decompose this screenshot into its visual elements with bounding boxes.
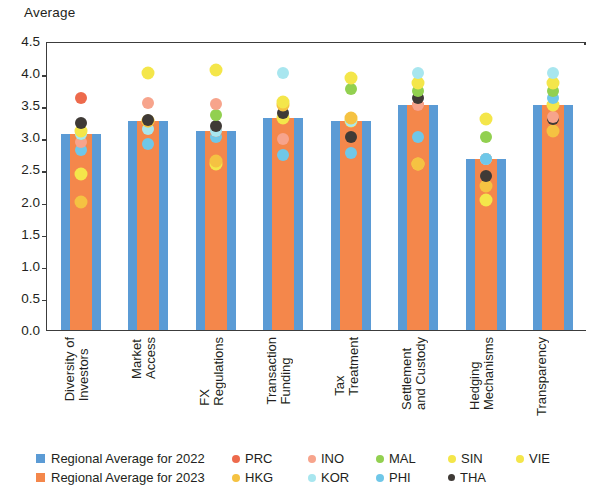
y-tick-label: 1.5 [2,227,40,242]
data-point-kor[interactable] [547,67,559,79]
data-point-tha[interactable] [210,120,222,132]
legend-label: HKG [245,470,273,485]
y-axis-tick [42,75,47,76]
y-tick-label: 3.5 [2,98,40,113]
data-point-ino[interactable] [142,97,154,109]
data-point-sin[interactable] [142,67,155,80]
data-point-phi[interactable] [277,149,289,161]
legend-label: Regional Average for 2023 [51,470,205,485]
bar-regional-average-2023[interactable] [137,121,159,330]
x-axis-label: Transaction Funding [265,337,293,404]
data-point-hkg[interactable] [74,195,87,208]
legend-item-country[interactable]: PHI [376,470,411,485]
legend-item-country[interactable]: KOR [308,470,349,485]
y-axis-tick [42,268,47,269]
data-point-sin[interactable] [344,72,357,85]
bar-group [61,43,101,330]
legend-item-country[interactable]: SIN [448,451,483,466]
y-tick-label: 0.5 [2,291,40,306]
data-point-tha[interactable] [75,117,87,129]
data-point-prc[interactable] [75,92,87,104]
chart-legend: Regional Average for 2022Regional Averag… [36,451,588,489]
legend-dot-icon [376,455,384,463]
legend-item-bar[interactable]: Regional Average for 2022 [36,451,205,466]
legend-item-country[interactable]: THA [448,470,486,485]
data-point-kor[interactable] [412,67,424,79]
data-point-kor[interactable] [277,67,289,79]
data-point-ino[interactable] [547,111,559,123]
bar-pair [196,43,236,330]
legend-item-country[interactable]: VIE [516,451,550,466]
data-point-sin[interactable] [277,96,290,109]
legend-dot-icon [232,455,240,463]
legend-label: MAL [389,451,416,466]
data-point-tha[interactable] [345,131,357,143]
data-point-hkg[interactable] [412,158,425,171]
x-axis-label: Diversity of Investors [63,337,91,401]
data-point-mal[interactable] [480,131,492,143]
y-tick-label: 4.5 [2,34,40,49]
legend-dot-icon [308,455,316,463]
x-axis-label: Hedging Mechanisms [468,337,496,410]
y-tick-label: 3.0 [2,130,40,145]
legend-label: KOR [321,470,349,485]
y-axis-tick [42,139,47,140]
data-point-hkg[interactable] [209,155,222,168]
plot-area [46,42,586,331]
legend-item-country[interactable]: INO [308,451,344,466]
legend-dot-icon [376,474,384,482]
bar-regional-average-2023[interactable] [542,105,564,330]
legend-swatch-icon [36,454,45,463]
data-point-mal[interactable] [210,109,222,121]
bar-pair [263,43,303,330]
bar-pair [128,43,168,330]
data-point-vie[interactable] [74,167,87,180]
y-axis-tick [42,204,47,205]
bar-group [263,43,303,330]
data-point-tha[interactable] [142,114,154,126]
y-axis-tick [42,300,47,301]
data-point-sin[interactable] [209,63,222,76]
x-axis-label: FX Regulations [198,337,226,406]
bar-regional-average-2023[interactable] [70,134,92,330]
data-point-tha[interactable] [480,170,492,182]
data-point-sin[interactable] [479,113,492,126]
data-point-phi[interactable] [480,153,492,165]
y-axis-tick [42,171,47,172]
legend-label: SIN [461,451,483,466]
legend-label: THA [460,470,486,485]
bar-group [196,43,236,330]
data-point-hkg[interactable] [344,112,357,125]
legend-label: INO [321,451,344,466]
legend-dot-icon [448,474,455,481]
y-tick-label: 0.0 [2,323,40,338]
bar-group [128,43,168,330]
legend-item-country[interactable]: HKG [232,470,273,485]
x-axis-label: Transparency [535,337,549,416]
data-point-ino[interactable] [210,98,222,110]
data-point-hkg[interactable] [547,124,560,137]
y-tick-label: 2.5 [2,162,40,177]
legend-dot-icon [516,455,524,463]
legend-dot-icon [308,474,316,482]
x-axis-label: Settlement and Custody [400,337,428,410]
legend-label: PHI [389,470,411,485]
y-tick-label: 1.0 [2,259,40,274]
legend-label: Regional Average for 2022 [51,451,205,466]
data-point-phi[interactable] [142,138,154,150]
legend-dot-icon [448,455,456,463]
data-point-phi[interactable] [345,147,357,159]
y-axis-tick [42,107,47,108]
legend-item-bar[interactable]: Regional Average for 2023 [36,470,205,485]
data-point-mal[interactable] [345,83,357,95]
data-point-vie[interactable] [479,194,492,207]
data-point-ino[interactable] [277,133,289,145]
x-axis-label: Market Access [130,337,158,379]
legend-label: VIE [529,451,550,466]
data-point-phi[interactable] [412,131,424,143]
x-axis-label: Tax Treatment [333,337,361,396]
legend-item-country[interactable]: PRC [232,451,272,466]
legend-label: PRC [245,451,272,466]
y-tick-label: 4.0 [2,66,40,81]
legend-item-country[interactable]: MAL [376,451,416,466]
